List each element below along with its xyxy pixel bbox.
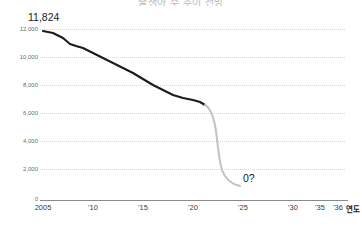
annotation-end-value: 0?: [243, 172, 255, 184]
annotation-start-value: 11,824: [28, 11, 59, 23]
xtick-2030: '30: [288, 203, 298, 212]
chart-root: 출생아 수 추이 전망 12,000 10,000 8,000 6,000 4,…: [0, 0, 362, 231]
xtick-2020: '20: [188, 203, 198, 212]
series-actual-line: [43, 31, 205, 105]
xtick-2015: '15: [138, 203, 148, 212]
series-layer: [0, 0, 362, 231]
xtick-2010: '10: [88, 203, 98, 212]
xtick-2025: '25: [238, 203, 248, 212]
x-axis-line: [40, 200, 348, 201]
xtick-2005: 2005: [35, 203, 52, 212]
xtick-2036: '36: [333, 203, 343, 212]
x-axis-unit-label: 연도: [346, 203, 360, 214]
xtick-2035: '35: [315, 203, 325, 212]
series-projection-line: [205, 105, 240, 186]
plot-area: 12,000 10,000 8,000 6,000 4,000 2,000 0 …: [0, 0, 362, 231]
